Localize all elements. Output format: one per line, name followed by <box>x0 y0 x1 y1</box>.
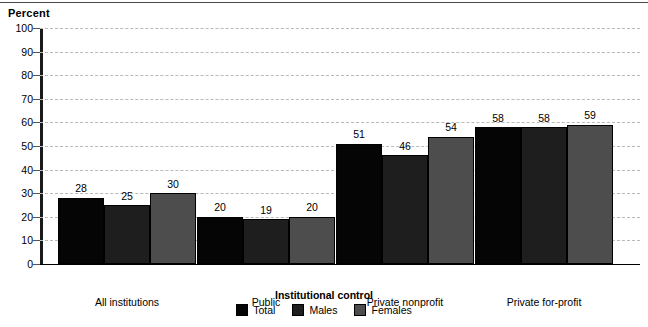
y-axis-tick <box>33 170 40 171</box>
y-axis-tick <box>33 28 40 29</box>
bar-value-label: 58 <box>492 113 504 124</box>
legend-label: Females <box>371 305 411 316</box>
y-axis-tick <box>33 52 40 53</box>
y-axis-tick <box>33 217 40 218</box>
bar-group: 201920Public <box>197 28 335 264</box>
bar-group: 282530All institutions <box>58 28 196 264</box>
y-axis-label: 60 <box>21 117 33 128</box>
y-axis-label: 40 <box>21 164 33 175</box>
bar-group: 585859Private for-profit <box>475 28 613 264</box>
bar-value-label: 54 <box>445 122 457 133</box>
bar-males[interactable] <box>521 127 567 264</box>
bar-females[interactable] <box>567 125 613 264</box>
legend-swatch-icon <box>236 304 248 316</box>
bar-total[interactable] <box>475 127 521 264</box>
y-axis-label: 70 <box>21 94 33 105</box>
y-axis-label: 0 <box>27 259 33 270</box>
bar-males[interactable] <box>382 155 428 264</box>
bar-value-label: 46 <box>399 141 411 152</box>
legend-label: Total <box>253 305 275 316</box>
bar-females[interactable] <box>150 193 196 264</box>
legend-item-males[interactable]: Males <box>292 304 337 316</box>
top-rule <box>0 2 648 3</box>
y-axis-label: 90 <box>21 46 33 57</box>
y-axis-label: 100 <box>15 23 33 34</box>
y-axis-tick <box>33 264 40 265</box>
y-axis-tick <box>33 99 40 100</box>
y-axis-label: 10 <box>21 235 33 246</box>
legend-swatch-icon <box>292 304 304 316</box>
y-axis-title: Percent <box>8 7 50 19</box>
x-axis-baseline <box>40 264 640 265</box>
legend-item-total[interactable]: Total <box>236 304 275 316</box>
bar-value-label: 30 <box>167 179 179 190</box>
bar-value-label: 25 <box>121 191 133 202</box>
bar-males[interactable] <box>104 205 150 264</box>
bar-value-label: 28 <box>75 183 87 194</box>
bar-females[interactable] <box>428 137 474 264</box>
bar-value-label: 58 <box>538 113 550 124</box>
bar-males[interactable] <box>243 219 289 264</box>
y-axis-label: 20 <box>21 212 33 223</box>
bar-value-label: 20 <box>214 202 226 213</box>
y-axis-label: 50 <box>21 141 33 152</box>
bar-total[interactable] <box>58 198 104 264</box>
chart-legend: TotalMalesFemales <box>0 304 648 316</box>
y-axis-tick <box>33 240 40 241</box>
y-axis-label: 30 <box>21 188 33 199</box>
y-axis-label: 80 <box>21 70 33 81</box>
bar-value-label: 20 <box>306 202 318 213</box>
y-axis-tick <box>33 122 40 123</box>
bar-value-label: 51 <box>353 129 365 140</box>
bar-group: 514654Private nonprofit <box>336 28 474 264</box>
legend-swatch-icon <box>354 304 366 316</box>
legend-label: Males <box>309 305 337 316</box>
legend-item-females[interactable]: Females <box>354 304 411 316</box>
y-axis-tick <box>33 146 40 147</box>
bar-total[interactable] <box>197 217 243 264</box>
x-axis-title: Institutional control <box>0 289 648 301</box>
y-axis-tick <box>33 193 40 194</box>
bar-total[interactable] <box>336 144 382 264</box>
plot-area: 0102030405060708090100282530All institut… <box>40 28 640 264</box>
bar-females[interactable] <box>289 217 335 264</box>
y-axis-tick <box>33 75 40 76</box>
bar-value-label: 59 <box>584 110 596 121</box>
bar-value-label: 19 <box>260 205 272 216</box>
